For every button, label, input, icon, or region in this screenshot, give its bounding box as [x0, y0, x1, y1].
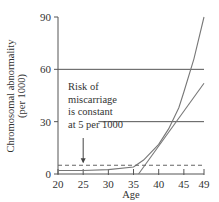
x-axis-label: Age	[122, 189, 140, 200]
tick-labels: 202530354045490306090	[40, 11, 210, 190]
x-tick-label: 30	[103, 178, 115, 190]
annotation-text: Risk of	[68, 81, 99, 92]
annotation-text: is constant	[68, 106, 113, 117]
arrow-head-icon	[81, 158, 86, 163]
y-axis-label-line: (per 1000)	[16, 73, 28, 118]
y-tick-label: 30	[40, 116, 52, 128]
x-tick-label: 45	[178, 178, 190, 190]
x-tick-label: 25	[78, 178, 90, 190]
chart: 202530354045490306090 Risk ofmiscarriage…	[0, 0, 219, 202]
series-line	[139, 83, 204, 174]
y-tick-label: 0	[46, 168, 52, 180]
x-tick-label: 40	[153, 178, 165, 190]
annotation-text: miscarriage	[68, 94, 117, 105]
y-axis-label: Chromosomal abnormality(per 1000)	[5, 39, 28, 153]
x-tick-label: 49	[199, 178, 211, 190]
y-tick-label: 90	[40, 11, 52, 23]
y-axis-label-line: Chromosomal abnormality	[5, 39, 16, 153]
y-tick-label: 60	[40, 63, 52, 75]
x-tick-label: 20	[53, 178, 65, 190]
annotation: Risk ofmiscarriageis constantat 5 per 10…	[68, 81, 123, 163]
annotation-text: at 5 per 1000	[68, 119, 123, 130]
